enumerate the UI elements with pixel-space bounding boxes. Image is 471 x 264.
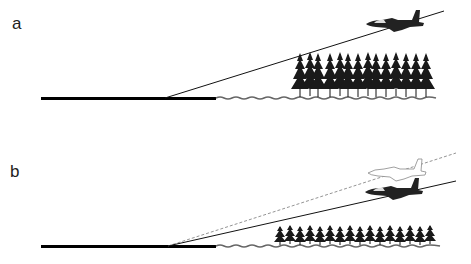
ghost-aircraft-b [368,159,426,181]
panel-a-diagram [41,10,444,100]
tree-row-b [274,225,436,245]
aircraft-b [365,178,423,200]
aircraft-a [366,10,424,32]
tree-row-a [291,52,435,97]
ground-a [216,97,436,99]
runway-a [41,97,216,100]
ground-b [216,245,440,247]
panel-b-diagram [41,153,456,248]
runway-b [41,245,216,248]
